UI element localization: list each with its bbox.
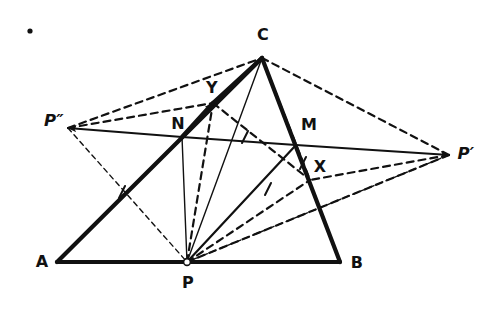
vertex-label-X: X: [314, 159, 327, 175]
segment-N-Ppp-ray: [68, 128, 182, 137]
vertex-label-A: A: [36, 254, 49, 270]
vertex-label-M: M: [301, 117, 317, 133]
segment-P-X: [187, 180, 310, 262]
vertex-label-Ppp: P″: [44, 113, 64, 130]
geometry-canvas: [0, 0, 498, 309]
point-dot-P: [184, 259, 191, 266]
segment-M-Pp-ray: [296, 145, 449, 155]
segment-P-N: [182, 137, 187, 262]
vertex-label-Pp: P′: [457, 146, 474, 163]
vertex-label-N: N: [171, 116, 185, 132]
vertex-label-P: P: [182, 275, 194, 291]
dashed-Pp-X: [310, 155, 449, 180]
segment-Y-C: [213, 58, 262, 103]
segment-layer: [57, 58, 449, 262]
vertex-label-B: B: [351, 255, 364, 271]
segment-P-C: [187, 58, 262, 262]
geometry-figure: ABCPNMXYP′P″: [0, 0, 498, 309]
dashed-Pp-C: [262, 58, 449, 155]
stray-dot: [27, 28, 32, 33]
vertex-label-C: C: [257, 27, 269, 43]
segment-N-M: [182, 137, 296, 145]
vertex-label-Y: Y: [206, 80, 218, 96]
point-dot-layer: [27, 28, 190, 265]
tick-on-PM: [265, 183, 271, 195]
